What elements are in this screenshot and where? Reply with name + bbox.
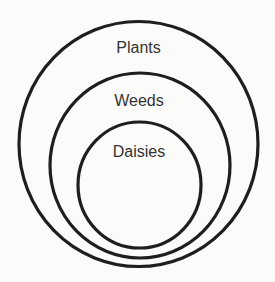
weeds-label: Weeds <box>114 92 164 109</box>
set-daisies: Daisies <box>78 122 201 248</box>
set-weeds: Weeds <box>50 73 230 258</box>
daisies-circle <box>78 122 201 248</box>
plants-label: Plants <box>116 39 160 56</box>
diagram-canvas: Plants Weeds Daisies <box>0 0 275 282</box>
nested-circles-diagram: Plants Weeds Daisies <box>0 0 275 282</box>
daisies-label: Daisies <box>113 143 165 160</box>
